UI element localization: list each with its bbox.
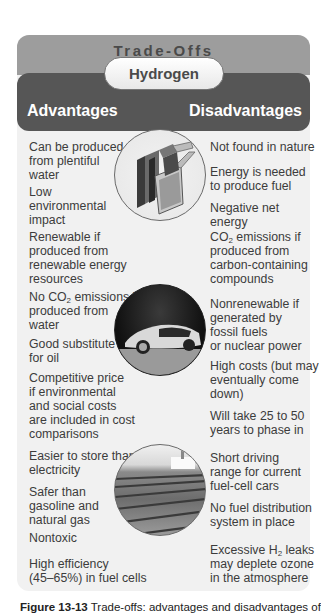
disadvantage-item: Not found in nature bbox=[210, 140, 315, 154]
car-icon bbox=[115, 285, 206, 376]
subject-pill: Hydrogen bbox=[104, 57, 224, 90]
disadvantage-item: Nonrenewable if generated by fossil fuel… bbox=[210, 297, 302, 353]
solar-panel-icon bbox=[115, 445, 206, 536]
disadvantage-item: High costs (but may eventually come down… bbox=[210, 359, 319, 401]
fuel-cell-icon bbox=[115, 130, 206, 221]
solar-array-image bbox=[114, 444, 206, 536]
advantage-item: Safer than gasoline and natural gas bbox=[29, 485, 99, 527]
disadvantage-item: CO2 emissions if produced from carbon-co… bbox=[210, 230, 308, 286]
advantage-item: Competitive price if environmental and s… bbox=[29, 371, 135, 441]
advantage-item: Nontoxic bbox=[29, 531, 77, 545]
disadvantage-item: Excessive H2 leaks may deplete ozone in … bbox=[210, 543, 314, 585]
disadvantages-heading: Disadvantages bbox=[189, 102, 302, 120]
disadvantage-item: No fuel distribution system in place bbox=[210, 501, 312, 529]
advantage-item: Can be produced from plentiful water bbox=[29, 140, 123, 182]
hydrogen-car-image bbox=[114, 284, 206, 376]
disadvantage-item: Energy is needed to produce fuel bbox=[210, 165, 306, 193]
advantage-item: Renewable if produced from renewable ene… bbox=[29, 230, 127, 286]
fuel-cell-stack-image bbox=[114, 129, 206, 221]
disadvantage-item: Short driving range for current fuel-cel… bbox=[210, 451, 301, 493]
advantage-item: High efficiency (45–65%) in fuel cells bbox=[29, 557, 147, 585]
advantage-item: Good substitute for oil bbox=[29, 337, 115, 365]
disadvantage-item: Will take 25 to 50 years to phase in bbox=[210, 409, 304, 437]
advantages-heading: Advantages bbox=[27, 102, 118, 120]
advantage-item: Low environmental impact bbox=[29, 185, 106, 227]
disadvantage-item: Negative net energy bbox=[210, 201, 320, 229]
figure-caption: Figure 13-13 Trade-offs: advantages and … bbox=[20, 601, 321, 613]
